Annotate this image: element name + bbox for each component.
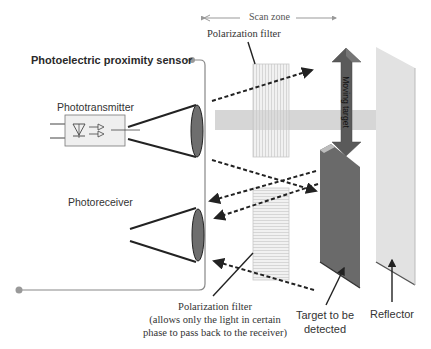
filter-top-leader-line [248, 42, 255, 64]
moving-target-label: Moving target [341, 72, 351, 132]
photoreceiver-label: Photoreceiver [68, 196, 133, 208]
target-label: Target to be detected [290, 308, 360, 336]
scan-zone-label: Scan zone [249, 11, 290, 22]
housing-dot-bottom [16, 287, 23, 294]
reflector-label: Reflector [370, 308, 414, 320]
filter-bottom-leader-line [213, 253, 253, 296]
polarization-filter-bottom-line3: phase to pass back to the receiver) [110, 326, 320, 339]
target-leader-arrow [326, 268, 344, 305]
reflector-panel [376, 47, 415, 285]
polarization-filter-bottom [253, 188, 289, 280]
polarization-filter-bottom-line2: (allows only the light in certain [110, 313, 320, 326]
transmitter-lens [128, 105, 203, 157]
diagram-title: Photoelectric proximity sensor [31, 54, 192, 66]
polarization-filter-top-label: Polarization filter [207, 28, 281, 39]
diagram-graphics [0, 0, 431, 349]
phototransmitter-label: Phototransmitter [57, 101, 134, 113]
polarization-filter-bottom-label: Polarization filter (allows only the lig… [110, 300, 320, 339]
receiver-lens [130, 208, 204, 262]
phototransmitter-component [50, 115, 140, 146]
target-label-line1: Target to be [290, 308, 360, 322]
target-label-line2: detected [290, 322, 360, 336]
polarized-retroreflective-sensor-diagram: Scan zone Polarization filter Photoelect… [0, 0, 431, 349]
polarization-filter-bottom-line1: Polarization filter [110, 300, 320, 313]
